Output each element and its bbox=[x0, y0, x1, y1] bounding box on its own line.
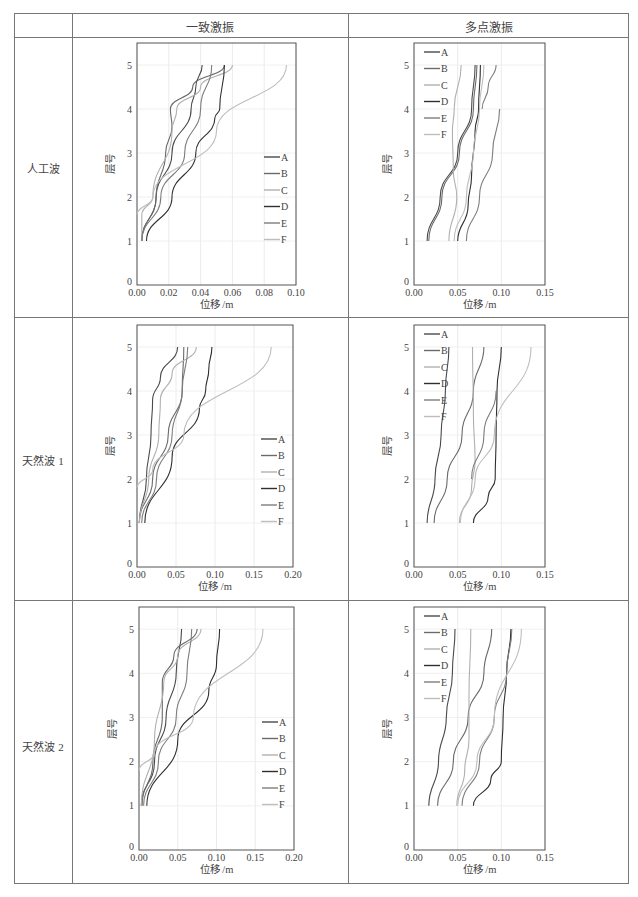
svg-text:4: 4 bbox=[127, 386, 132, 397]
col-divider-1 bbox=[72, 13, 73, 884]
svg-text:0.04: 0.04 bbox=[192, 287, 210, 298]
svg-text:2: 2 bbox=[404, 756, 409, 767]
svg-text:1: 1 bbox=[127, 236, 132, 247]
svg-text:0: 0 bbox=[404, 276, 409, 287]
row-label-natural-1: 天然波 1 bbox=[14, 452, 72, 468]
svg-text:C: C bbox=[281, 185, 288, 196]
chart-natural2-uniform: 0.000.050.100.150.20012345位移 /m层号ABCDEF bbox=[99, 602, 314, 887]
svg-text:0.08: 0.08 bbox=[255, 287, 273, 298]
svg-text:B: B bbox=[441, 627, 448, 638]
svg-text:0.15: 0.15 bbox=[245, 569, 263, 580]
svg-text:0.15: 0.15 bbox=[536, 569, 554, 580]
svg-text:0.20: 0.20 bbox=[285, 852, 303, 863]
svg-text:位移 /m: 位移 /m bbox=[463, 863, 497, 875]
svg-text:3: 3 bbox=[129, 712, 134, 723]
svg-text:F: F bbox=[279, 799, 285, 810]
svg-text:0.00: 0.00 bbox=[405, 287, 423, 298]
svg-text:0.06: 0.06 bbox=[224, 287, 242, 298]
svg-text:1: 1 bbox=[127, 518, 132, 529]
svg-text:A: A bbox=[279, 717, 287, 728]
row-label-natural-2: 天然波 2 bbox=[14, 738, 72, 754]
svg-text:1: 1 bbox=[404, 236, 409, 247]
svg-text:0.00: 0.00 bbox=[130, 852, 148, 863]
svg-text:层号: 层号 bbox=[382, 719, 393, 739]
svg-text:4: 4 bbox=[129, 668, 134, 679]
svg-text:4: 4 bbox=[127, 104, 132, 115]
svg-text:0.10: 0.10 bbox=[493, 569, 511, 580]
svg-text:A: A bbox=[441, 47, 449, 58]
svg-text:0.15: 0.15 bbox=[536, 287, 554, 298]
chart-artificial-multipoint: 0.000.050.100.15012345位移 /m层号ABCDEF bbox=[374, 38, 565, 322]
svg-text:E: E bbox=[441, 395, 447, 406]
svg-text:0.05: 0.05 bbox=[169, 852, 187, 863]
col-header-uniform: 一致激振 bbox=[72, 18, 348, 36]
svg-text:B: B bbox=[278, 450, 285, 461]
svg-text:位移 /m: 位移 /m bbox=[198, 580, 232, 592]
chart-natural1-uniform: 0.000.050.100.150.20012345位移 /m层号ABCDEF bbox=[97, 320, 313, 604]
svg-text:0.10: 0.10 bbox=[206, 569, 224, 580]
svg-text:0.00: 0.00 bbox=[405, 569, 423, 580]
svg-text:层号: 层号 bbox=[105, 154, 116, 174]
svg-text:A: A bbox=[441, 329, 449, 340]
svg-text:1: 1 bbox=[404, 800, 409, 811]
svg-text:C: C bbox=[278, 467, 285, 478]
svg-text:C: C bbox=[279, 750, 286, 761]
svg-text:F: F bbox=[441, 129, 447, 140]
svg-text:0.00: 0.00 bbox=[128, 287, 146, 298]
svg-text:E: E bbox=[441, 113, 447, 124]
svg-text:3: 3 bbox=[404, 430, 409, 441]
svg-text:E: E bbox=[278, 500, 284, 511]
series-F bbox=[137, 347, 271, 488]
svg-text:5: 5 bbox=[127, 60, 132, 71]
svg-text:1: 1 bbox=[404, 518, 409, 529]
svg-text:0: 0 bbox=[404, 841, 409, 852]
chart-natural1-multipoint: 0.000.050.100.15012345位移 /m层号ABCDEF bbox=[374, 320, 565, 604]
svg-text:1: 1 bbox=[129, 800, 134, 811]
svg-text:A: A bbox=[281, 152, 289, 163]
svg-text:0.00: 0.00 bbox=[128, 569, 146, 580]
svg-text:层号: 层号 bbox=[382, 436, 393, 456]
svg-text:F: F bbox=[441, 411, 447, 422]
svg-text:0.05: 0.05 bbox=[449, 569, 467, 580]
svg-text:层号: 层号 bbox=[382, 154, 393, 174]
svg-text:B: B bbox=[279, 733, 286, 744]
svg-text:3: 3 bbox=[127, 148, 132, 159]
svg-text:0.05: 0.05 bbox=[449, 287, 467, 298]
svg-text:4: 4 bbox=[404, 668, 409, 679]
svg-text:C: C bbox=[441, 80, 448, 91]
svg-text:C: C bbox=[441, 644, 448, 655]
svg-text:4: 4 bbox=[404, 386, 409, 397]
svg-text:D: D bbox=[441, 660, 448, 671]
svg-text:F: F bbox=[441, 693, 447, 704]
svg-text:D: D bbox=[281, 201, 288, 212]
svg-text:D: D bbox=[441, 378, 448, 389]
svg-text:F: F bbox=[278, 516, 284, 527]
svg-text:位移 /m: 位移 /m bbox=[200, 298, 234, 310]
svg-text:B: B bbox=[441, 63, 448, 74]
svg-text:4: 4 bbox=[404, 104, 409, 115]
svg-text:0: 0 bbox=[127, 558, 132, 569]
svg-text:A: A bbox=[278, 434, 286, 445]
svg-text:层号: 层号 bbox=[105, 436, 116, 456]
svg-text:0.10: 0.10 bbox=[493, 852, 511, 863]
svg-text:0.10: 0.10 bbox=[287, 287, 305, 298]
svg-text:0: 0 bbox=[129, 841, 134, 852]
chart-natural2-multipoint: 0.000.050.100.15012345位移 /m层号ABCDEF bbox=[374, 602, 565, 887]
svg-text:0.00: 0.00 bbox=[405, 852, 423, 863]
svg-text:5: 5 bbox=[404, 624, 409, 635]
svg-text:0.15: 0.15 bbox=[247, 852, 265, 863]
svg-text:E: E bbox=[441, 677, 447, 688]
svg-text:位移 /m: 位移 /m bbox=[463, 298, 497, 310]
svg-text:2: 2 bbox=[404, 474, 409, 485]
svg-text:A: A bbox=[441, 611, 449, 622]
svg-text:0.10: 0.10 bbox=[493, 287, 511, 298]
col-divider-2 bbox=[348, 13, 349, 884]
svg-text:C: C bbox=[441, 362, 448, 373]
svg-text:2: 2 bbox=[404, 192, 409, 203]
svg-text:0.02: 0.02 bbox=[160, 287, 178, 298]
svg-text:3: 3 bbox=[404, 712, 409, 723]
row-label-artificial: 人工波 bbox=[14, 160, 72, 176]
svg-text:F: F bbox=[281, 234, 287, 245]
svg-text:0: 0 bbox=[127, 276, 132, 287]
svg-text:0: 0 bbox=[404, 558, 409, 569]
